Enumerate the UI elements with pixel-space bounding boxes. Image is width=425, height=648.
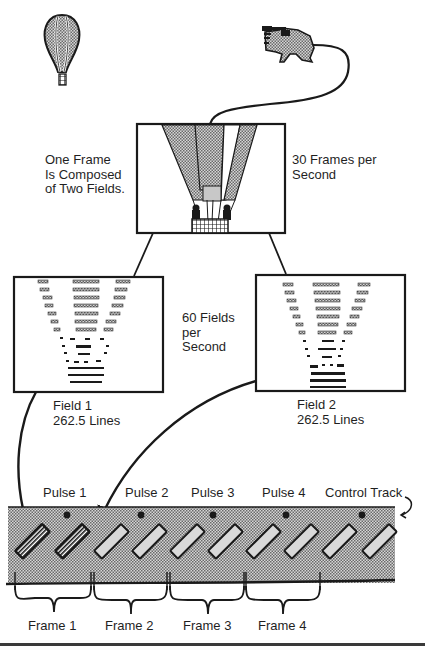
frame-3-label: Frame 3 [183,619,231,634]
pulse-1-label: Pulse 1 [43,486,86,501]
video-camera-icon [262,26,314,62]
bottom-divider [0,643,425,646]
field-rate-label: 60 Fields per Second [182,311,235,355]
pulse-3-label: Pulse 3 [191,486,234,501]
pulse-2-label: Pulse 2 [125,486,168,501]
frame-rate-label: 30 Frames per Second [292,153,377,182]
full-frame-image [137,124,285,233]
control-track-label: Control Track [325,486,402,501]
connector-frame-to-field2 [269,233,286,274]
field1-image [14,277,163,392]
frame-composition-label: One Frame Is Composed of Two Fields. [45,153,125,197]
field1-label: Field 1 262.5 Lines [53,399,120,428]
field2-label: Field 2 262.5 Lines [297,398,364,427]
video-tape [6,507,397,590]
pulse-4-label: Pulse 4 [262,486,305,501]
frame-4-label: Frame 4 [258,619,306,634]
field2-image [256,275,405,391]
frame-2-label: Frame 2 [105,619,153,634]
connector-frame-to-field1 [134,233,153,276]
frame-1-label: Frame 1 [28,619,76,634]
camera-cable [210,45,349,124]
hot-air-balloon-icon [45,15,80,85]
frame-braces [15,586,320,614]
